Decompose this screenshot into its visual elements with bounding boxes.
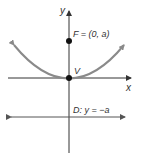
y-axis-label: y	[59, 5, 66, 16]
vertex-label: V	[74, 66, 81, 76]
focus-label: F = (0, a)	[73, 29, 110, 39]
directrix-label: D: y = −a	[73, 105, 110, 115]
x-axis-label: x	[125, 82, 132, 93]
parabola-diagram: y x F = (0, a) V D: y = −a	[0, 0, 145, 161]
focus-point	[66, 38, 72, 44]
vertex-point	[66, 75, 72, 81]
